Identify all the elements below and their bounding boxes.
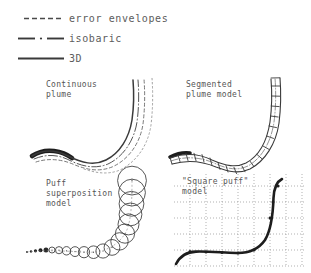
- panel-puff-superposition: Puff superposition model: [24, 174, 169, 273]
- legend-item-label: error envelopes: [69, 13, 168, 24]
- panel-continuous-plume: Continuous plume: [24, 74, 164, 174]
- legend-item-error-envelopes: error envelopes: [18, 8, 168, 28]
- square-puff-grid-diagram: [166, 174, 311, 273]
- segmented-plume-diagram: [166, 74, 311, 174]
- legend-item-label: 3D: [69, 53, 82, 64]
- solid-line-icon: [18, 53, 64, 64]
- figure-canvas: error envelopes isobaric 3D Continuous: [0, 0, 311, 273]
- dash-dot-line-icon: [18, 33, 64, 44]
- dashed-line-icon: [24, 13, 64, 24]
- continuous-plume-diagram: [24, 74, 164, 174]
- legend: error envelopes isobaric 3D: [0, 0, 311, 72]
- panel-segmented-plume: Segmented plume model: [166, 74, 311, 174]
- legend-item-label: isobaric: [69, 33, 122, 44]
- puff-superposition-diagram: [24, 174, 169, 273]
- legend-item-isobaric: isobaric: [18, 28, 122, 48]
- panel-square-puff: "Square puff" model: [166, 174, 311, 273]
- legend-item-3d: 3D: [18, 48, 82, 68]
